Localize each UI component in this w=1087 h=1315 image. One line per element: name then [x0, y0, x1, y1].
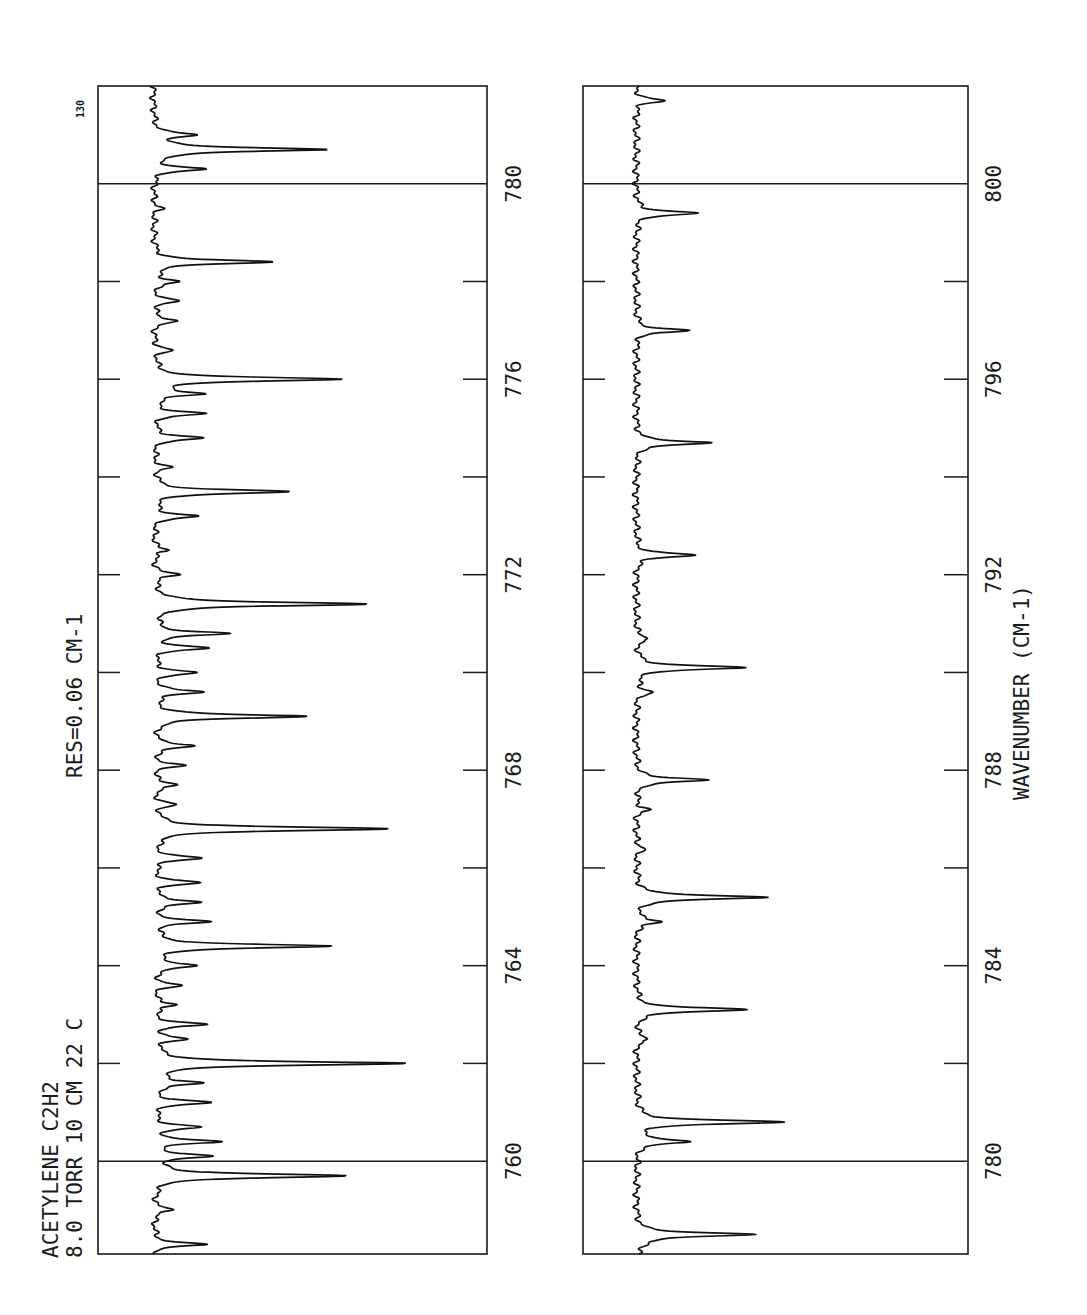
tick-label: 796 [982, 360, 1006, 398]
tick-label: 760 [502, 1142, 526, 1180]
corner-code: 130 [75, 100, 86, 118]
tick-label: 772 [502, 556, 526, 594]
tick-label: 784 [982, 947, 1006, 985]
right-spectrum-trace [632, 86, 784, 1254]
tick-label: 768 [502, 751, 526, 789]
tick-label: 788 [982, 751, 1006, 789]
tick-label: 780 [502, 165, 526, 203]
tick-label: 764 [502, 947, 526, 985]
spectrum-figure: 760764768772776780780784788792796800 ACE… [0, 0, 1087, 1315]
left-spectrum-trace [150, 86, 405, 1254]
right-panel-frame [583, 86, 968, 1254]
left-panel-frame [98, 86, 487, 1254]
tick-label: 800 [982, 165, 1006, 203]
right-panel-ticks [583, 184, 968, 1161]
x-axis-title: WAVENUMBER (CM-1) [1010, 585, 1034, 800]
tick-label: 792 [982, 556, 1006, 594]
tick-label: 780 [982, 1142, 1006, 1180]
sample-label: ACETYLENE C2H2 [39, 1081, 63, 1258]
tick-labels: 760764768772776780780784788792796800 [502, 165, 1006, 1180]
tick-label: 776 [502, 360, 526, 398]
resolution-label: RES=0.06 CM-1 [63, 614, 87, 778]
conditions-label: 8.0 TORR 10 CM 22 C [63, 1018, 87, 1258]
